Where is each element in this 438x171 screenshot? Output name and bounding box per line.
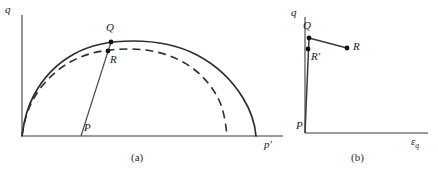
- panel-a-caption: (a): [131, 152, 143, 163]
- panel-b-x-axis-label: εq: [411, 136, 419, 150]
- panel-a-point-label-Q: Q: [106, 22, 114, 33]
- panel-a-point-Q-marker: [109, 40, 114, 45]
- panel-b-caption: (b): [351, 152, 364, 163]
- panel-a-dashed-yield-curve: [22, 49, 227, 136]
- panel-b-point-label-R-prime: R′: [311, 51, 320, 62]
- panel-a-x-axis-end-label: p′: [264, 139, 272, 150]
- panel-b-x-axis-label-subscript: q: [415, 141, 419, 150]
- figure-container: q Q R P p′ (a) q Q R′ R P εq (b): [0, 0, 438, 171]
- panel-a-group: [22, 15, 283, 136]
- panel-b-point-label-Q: Q: [303, 20, 311, 31]
- panel-b-point-label-R: R: [353, 41, 360, 52]
- panel-b-y-axis-label: q: [291, 7, 297, 18]
- panel-b-point-Q-marker: [307, 36, 312, 41]
- panel-b-path-Q-to-R: [309, 38, 347, 48]
- panel-a-solid-yield-curve: [22, 41, 256, 136]
- panel-a-point-label-R: R: [110, 54, 117, 65]
- panel-b-point-R-marker: [345, 46, 350, 51]
- panel-b-group: [305, 17, 428, 133]
- figure-canvas: [0, 0, 438, 171]
- panel-b-point-label-P: P: [296, 120, 303, 131]
- panel-a-y-axis-label: q: [5, 4, 11, 15]
- panel-a-point-label-P: P: [84, 122, 91, 133]
- panel-b-point-R-prime-marker: [306, 47, 311, 52]
